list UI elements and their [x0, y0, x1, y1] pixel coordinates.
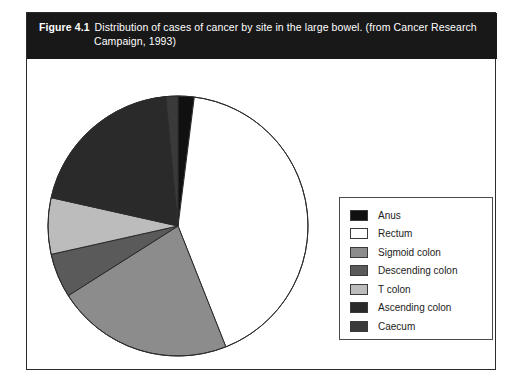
figure-frame: Figure 4.1Distribution of cases of cance… [26, 12, 496, 370]
legend-swatch-t-colon [350, 284, 368, 295]
legend-label-anus: Anus [378, 210, 401, 221]
legend-item-descending-colon: Descending colon [350, 262, 492, 281]
legend-item-ascending-colon: Ascending colon [350, 299, 492, 318]
legend-swatch-sigmoid-colon [350, 247, 368, 258]
figure-caption-line-2: Campaign, 1993) [39, 34, 485, 48]
legend-item-caecum: Caecum [350, 317, 492, 336]
figure-number-label: Figure 4.1 [39, 21, 90, 33]
pie-chart-plot-area: Anus Rectum Sigmoid colon Descending col… [27, 59, 497, 370]
pie-slice-group [48, 96, 308, 356]
legend-label-t-colon: T colon [378, 284, 411, 295]
legend-swatch-anus [350, 210, 368, 221]
figure-caption-bar: Figure 4.1Distribution of cases of cance… [27, 13, 497, 59]
legend-item-t-colon: T colon [350, 280, 492, 299]
legend-swatch-ascending-colon [350, 302, 368, 313]
legend-label-rectum: Rectum [378, 228, 412, 239]
figure-caption-line-1: Figure 4.1Distribution of cases of cance… [39, 20, 485, 34]
legend-label-sigmoid-colon: Sigmoid colon [378, 247, 441, 258]
legend-item-rectum: Rectum [350, 225, 492, 244]
legend-item-sigmoid-colon: Sigmoid colon [350, 243, 492, 262]
legend-label-caecum: Caecum [378, 321, 415, 332]
figure-caption-text-1: Distribution of cases of cancer by site … [95, 21, 477, 33]
legend-label-descending-colon: Descending colon [378, 265, 458, 276]
legend-label-ascending-colon: Ascending colon [378, 302, 451, 313]
legend-swatch-rectum [350, 228, 368, 239]
legend-swatch-caecum [350, 321, 368, 332]
legend-item-anus: Anus [350, 206, 492, 225]
chart-legend: Anus Rectum Sigmoid colon Descending col… [339, 197, 493, 340]
legend-swatch-descending-colon [350, 265, 368, 276]
